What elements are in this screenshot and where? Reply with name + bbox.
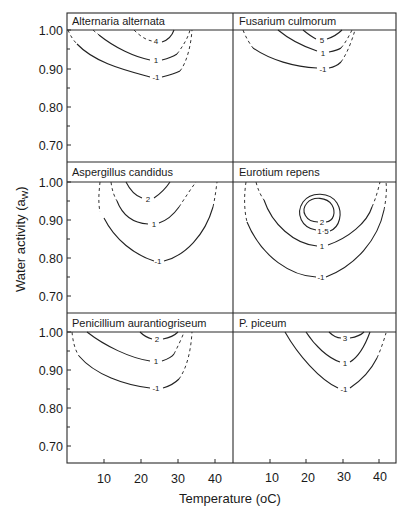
panel-title-fusarium: Fusarium culmorum: [239, 15, 336, 27]
y-axis-title: Water activity (aW): [13, 186, 30, 292]
outer-frame: [67, 13, 396, 463]
panel-frames: [67, 13, 396, 463]
panel-titles: Alternaria alternata Fusarium culmorum A…: [72, 15, 336, 329]
xtick-left-20: 20: [134, 472, 148, 486]
ytick-row3-090: 0.90: [39, 364, 63, 378]
ytick-row2-070: 0.70: [39, 290, 63, 304]
contours-aspergillus: 2 1 -1: [99, 182, 217, 266]
contour-label: 1: [154, 56, 159, 65]
ytick-row1-100: 1.00: [39, 24, 63, 38]
contours-eurotium: 2 1·5 1 -1: [245, 182, 387, 282]
y-axis: 1.00 0.90 0.80 0.70 1.00 0.90 0.80 0.70 …: [39, 24, 71, 454]
contour-label: 3: [343, 334, 348, 343]
contour-label: 5: [320, 36, 325, 45]
figure-canvas: Alternaria alternata Fusarium culmorum A…: [0, 0, 409, 517]
ytick-row2-080: 0.80: [39, 252, 63, 266]
contour-label: 2: [146, 195, 151, 204]
contours-alternaria: 4 1 -1: [68, 30, 192, 82]
contour-label: -1: [319, 65, 327, 74]
ytick-row3-080: 0.80: [39, 402, 63, 416]
contours-fusarium: 5 1 -1: [243, 30, 355, 74]
xtick-right-30: 30: [337, 470, 351, 484]
ytick-row3-070: 0.70: [39, 440, 63, 454]
contour-label: -1: [152, 384, 160, 393]
contour-figure: Alternaria alternata Fusarium culmorum A…: [0, 0, 409, 517]
xtick-left-30: 30: [171, 472, 185, 486]
xtick-right-20: 20: [301, 471, 315, 485]
ytick-row2-100: 1.00: [39, 176, 63, 190]
contours-p-piceum: 3 1 -1: [285, 332, 386, 394]
contour-label: -1: [154, 257, 162, 266]
panel-title-eurotium: Eurotium repens: [239, 166, 320, 178]
ytick-row1-080: 0.80: [39, 101, 63, 115]
xtick-left-40: 40: [208, 472, 222, 486]
ytick-row2-090: 0.90: [39, 214, 63, 228]
contour-label: 1: [343, 359, 348, 368]
contour-label: 2: [155, 335, 160, 344]
contour-label: -1: [317, 273, 325, 282]
panel-title-aspergillus: Aspergillus candidus: [72, 166, 173, 178]
contour-label: 2: [320, 218, 325, 227]
xtick-left-10: 10: [97, 472, 111, 486]
contour-label: -1: [340, 385, 348, 394]
ytick-row3-100: 1.00: [39, 326, 63, 340]
x-axis-title: Temperature (oC): [179, 491, 281, 506]
contour-label: 1: [320, 242, 325, 251]
panel-title-penicillium: Penicillium aurantiogriseum: [72, 317, 207, 329]
panel-title-alternaria: Alternaria alternata: [72, 15, 166, 27]
panel-title-p-piceum: P. piceum: [239, 317, 287, 329]
contour-label: 4: [154, 37, 159, 46]
contour-label: 1·5: [317, 227, 329, 236]
contour-label: 1: [321, 49, 326, 58]
contour-label: 1: [152, 220, 157, 229]
contour-label: -1: [152, 73, 160, 82]
ytick-row1-090: 0.90: [39, 63, 63, 77]
xtick-right-10: 10: [265, 471, 279, 485]
ytick-row1-070: 0.70: [39, 139, 63, 153]
contour-label: 1: [154, 357, 159, 366]
contours-penicillium: 2 1 -1: [72, 332, 192, 393]
xtick-right-40: 40: [373, 470, 387, 484]
